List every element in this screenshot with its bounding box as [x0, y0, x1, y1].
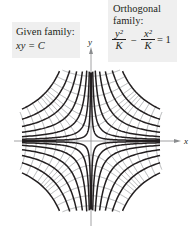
given-curve	[22, 143, 89, 211]
x-axis-arrow-icon	[174, 139, 181, 143]
x-axis-label: x	[183, 136, 188, 146]
curve-plot: x y	[0, 0, 195, 231]
given-curve	[22, 72, 89, 140]
y-axis-label: y	[87, 37, 92, 47]
y-axis-arrow-icon	[89, 47, 93, 54]
given-curve	[93, 72, 160, 140]
given-curve	[93, 143, 160, 211]
